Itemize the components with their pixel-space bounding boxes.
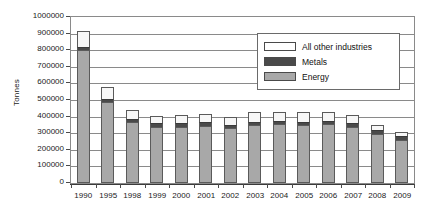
- x-axis-tick-label: 2000: [169, 192, 194, 200]
- bar-segment-all-other-industries: [199, 114, 212, 122]
- x-axis-tick-mark: [243, 184, 244, 188]
- x-axis-tick-mark: [341, 184, 342, 188]
- y-axis-tick-label: 300000: [6, 128, 64, 136]
- y-axis-tick-label: 900000: [6, 29, 64, 37]
- x-axis-tick-label: 1995: [96, 192, 121, 200]
- x-axis-tick-label: 1999: [145, 192, 170, 200]
- y-axis-tick-mark: [66, 132, 70, 133]
- bar-segment-energy: [273, 124, 286, 183]
- bar-segment-energy: [150, 127, 163, 183]
- y-axis-tick-label: 600000: [6, 78, 64, 86]
- y-axis-tick-mark: [66, 182, 70, 183]
- y-axis-tick-label: 500000: [6, 95, 64, 103]
- x-axis-tick-label: 2001: [194, 192, 219, 200]
- bar-segment-energy: [248, 125, 261, 183]
- bar-column: [77, 31, 90, 183]
- bar-segment-all-other-industries: [297, 112, 310, 121]
- bar-column: [224, 117, 237, 183]
- bar-segment-all-other-industries: [248, 112, 261, 121]
- legend-label-metals: Metals: [302, 57, 327, 67]
- x-axis-tick-label: 2007: [341, 192, 366, 200]
- x-axis-tick-mark: [194, 184, 195, 188]
- bar-column: [346, 115, 359, 183]
- bar-column: [248, 112, 261, 183]
- legend-item-all-other-industries: All other industries: [264, 39, 393, 54]
- y-axis-tick-label: 700000: [6, 62, 64, 70]
- x-axis-tick-mark: [414, 184, 415, 188]
- y-axis-tick-mark: [66, 149, 70, 150]
- bar-segment-all-other-industries: [175, 115, 188, 123]
- bar-segment-energy: [224, 128, 237, 183]
- bar-segment-energy: [395, 140, 408, 183]
- bar-column: [126, 110, 139, 183]
- y-axis-tick-label: 400000: [6, 112, 64, 120]
- bar-segment-all-other-industries: [322, 112, 335, 121]
- y-axis-tick-label: 100000: [6, 161, 64, 169]
- x-axis-tick-mark: [292, 184, 293, 188]
- bar-column: [199, 114, 212, 183]
- x-axis-tick-label: 2003: [243, 192, 268, 200]
- legend-label-energy: Energy: [302, 72, 329, 82]
- bar-segment-energy: [126, 122, 139, 183]
- bar-column: [101, 87, 114, 183]
- x-axis-tick-label: 1998: [120, 192, 145, 200]
- bar-segment-all-other-industries: [101, 87, 114, 99]
- bar-segment-all-other-industries: [273, 112, 286, 121]
- y-axis-tick-mark: [66, 116, 70, 117]
- x-axis-tick-mark: [267, 184, 268, 188]
- bar-segment-energy: [175, 127, 188, 183]
- legend-item-energy: Energy: [264, 69, 393, 84]
- y-axis-tick-label: 0: [6, 178, 64, 186]
- x-axis-tick-label: 2009: [390, 192, 415, 200]
- bar-segment-energy: [297, 125, 310, 183]
- y-axis-tick-mark: [66, 99, 70, 100]
- x-axis-tick-mark: [120, 184, 121, 188]
- x-axis-tick-label: 2002: [218, 192, 243, 200]
- x-axis-tick-mark: [96, 184, 97, 188]
- bar-segment-energy: [322, 124, 335, 183]
- bar-segment-all-other-industries: [150, 116, 163, 123]
- y-axis-tick-label: 200000: [6, 145, 64, 153]
- bar-column: [150, 116, 163, 183]
- stacked-bar-chart: Tonnes 100000090000080000070000060000050…: [0, 0, 431, 217]
- legend-swatch-metals: [264, 57, 296, 66]
- x-axis-tick-mark: [390, 184, 391, 188]
- y-axis-tick-label: 1000000: [6, 12, 64, 20]
- x-axis-tick-mark: [365, 184, 366, 188]
- x-axis-tick-mark: [71, 184, 72, 188]
- x-axis-tick-mark: [316, 184, 317, 188]
- y-axis-tick-mark: [66, 82, 70, 83]
- bar-segment-all-other-industries: [126, 110, 139, 119]
- y-axis-tick-mark: [66, 16, 70, 17]
- bar-column: [297, 112, 310, 183]
- x-axis-tick-mark: [218, 184, 219, 188]
- x-axis-tick-label: 2004: [267, 192, 292, 200]
- bar-column: [322, 112, 335, 183]
- legend-label-all-other-industries: All other industries: [302, 42, 372, 52]
- bar-segment-all-other-industries: [346, 115, 359, 123]
- x-axis-tick-label: 1990: [71, 192, 96, 200]
- bar-segment-all-other-industries: [224, 117, 237, 125]
- legend-swatch-all-other-industries: [264, 42, 296, 51]
- x-axis-tick-mark: [169, 184, 170, 188]
- y-axis-tick-mark: [66, 49, 70, 50]
- bar-column: [273, 112, 286, 183]
- bar-segment-all-other-industries: [77, 31, 90, 47]
- x-axis-tick-label: 2008: [365, 192, 390, 200]
- legend-swatch-energy: [264, 72, 296, 81]
- legend-item-metals: Metals: [264, 54, 393, 69]
- bar-segment-energy: [371, 134, 384, 183]
- bar-segment-energy: [199, 126, 212, 183]
- y-axis-tick-mark: [66, 33, 70, 34]
- chart-legend: All other industries Metals Energy: [257, 33, 400, 90]
- bar-column: [175, 115, 188, 183]
- bar-column: [395, 132, 408, 183]
- y-axis-tick-label: 800000: [6, 45, 64, 53]
- bar-segment-energy: [346, 127, 359, 183]
- bar-segment-energy: [77, 50, 90, 183]
- x-axis-tick-label: 2006: [316, 192, 341, 200]
- y-axis-tick-mark: [66, 66, 70, 67]
- bar-segment-energy: [101, 102, 114, 183]
- x-axis-tick-label: 2005: [292, 192, 317, 200]
- bar-column: [371, 125, 384, 183]
